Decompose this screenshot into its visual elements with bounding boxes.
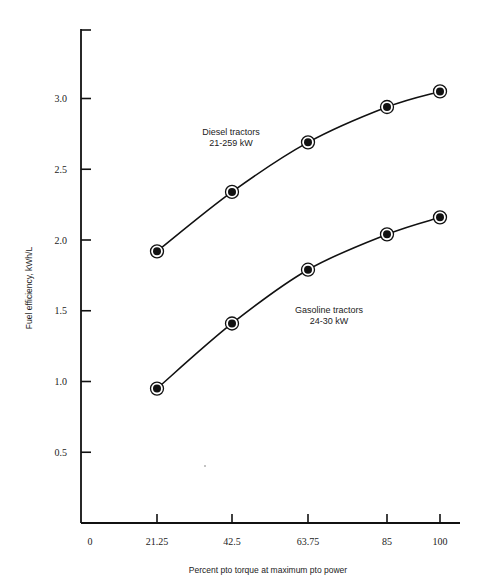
y-tick-label: 3.0 (55, 93, 68, 104)
data-point-dot (304, 266, 312, 274)
data-point-dot (228, 188, 236, 196)
data-point-dot (436, 87, 444, 95)
gasoline-series-label-line2: 24-30 kW (310, 316, 349, 326)
gasoline-curve (157, 217, 440, 388)
fuel-efficiency-chart: 0.51.01.52.02.53.0021.2542.563.7585100 F… (0, 0, 480, 580)
data-point-dot (383, 103, 391, 111)
data-point-dot (436, 213, 444, 221)
data-point-dot (153, 385, 161, 393)
y-axis-title: Fuel efficiency, kWh/L (24, 247, 34, 330)
x-tick-label: 21.25 (146, 536, 169, 547)
data-point-dot (383, 230, 391, 238)
diesel-series-label-line1: Diesel tractors (202, 127, 260, 137)
series-group (151, 85, 447, 395)
x-axis-title: Percent pto torque at maximum pto power (189, 565, 347, 575)
y-tick-label: 2.5 (55, 164, 68, 175)
x-tick-label: 100 (433, 536, 448, 547)
axes: 0.51.01.52.02.53.0021.2542.563.7585100 (55, 29, 461, 547)
x-tick-label: 63.75 (297, 536, 320, 547)
diesel-series-label-line2: 21-259 kW (209, 138, 253, 148)
x-tick-label: 85 (382, 536, 392, 547)
gasoline-series-label-line1: Gasoline tractors (295, 305, 364, 315)
x-tick-label: 42.5 (223, 536, 241, 547)
x-tick-label: 0 (88, 536, 93, 547)
y-tick-label: 1.5 (55, 305, 68, 316)
y-tick-label: 0.5 (55, 447, 68, 458)
data-point-dot (153, 247, 161, 255)
data-point-dot (304, 138, 312, 146)
diesel-curve (157, 91, 440, 251)
labels-group: Fuel efficiency, kWh/L Percent pto torqu… (24, 127, 364, 575)
y-tick-label: 1.0 (55, 376, 68, 387)
y-tick-label: 2.0 (55, 235, 68, 246)
stray-dot (204, 465, 206, 467)
data-point-dot (228, 319, 236, 327)
